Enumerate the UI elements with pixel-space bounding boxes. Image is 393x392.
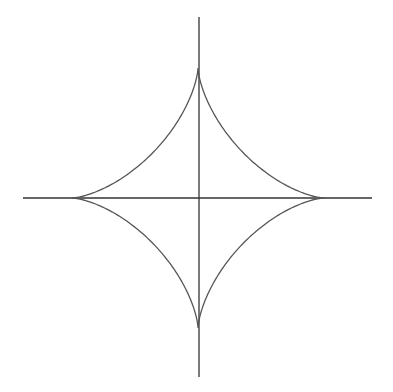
astroid-diagram xyxy=(0,0,393,392)
background xyxy=(0,0,393,392)
